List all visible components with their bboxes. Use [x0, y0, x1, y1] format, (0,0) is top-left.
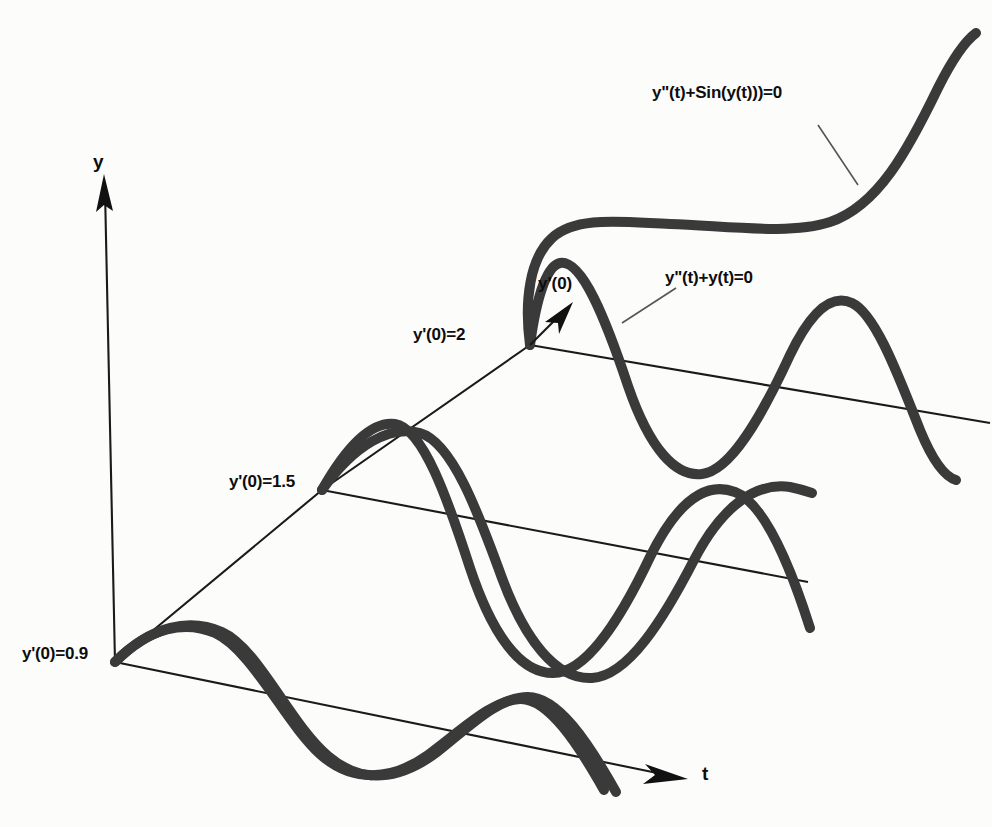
leader-line-nonlinear-equation	[818, 125, 858, 185]
initial-condition-label-0p9: y'(0)=0.9	[22, 644, 88, 664]
slope-arrow-label: y'(0)	[538, 274, 572, 294]
y-axis-label: y	[93, 151, 104, 173]
initial-condition-label-1p5: y'(0)=1.5	[229, 472, 295, 492]
t-axis-arrowhead	[643, 764, 688, 784]
slope-arrow-head	[545, 302, 573, 334]
y-axis-line	[105, 190, 115, 662]
leader-line-linear-equation	[622, 288, 676, 323]
curve-nonlinear-slope-1p5	[322, 431, 812, 678]
ode-solution-figure: y t y"(t)+Sin(y(t)))=0 y"(t)+y(t)=0 y'(0…	[0, 0, 992, 827]
figure-canvas	[0, 0, 992, 827]
equation-label-nonlinear: y"(t)+Sin(y(t)))=0	[652, 83, 782, 103]
curve-linear-slope-2	[530, 263, 956, 480]
t-axis-label: t	[702, 763, 708, 785]
equation-label-linear: y"(t)+y(t)=0	[665, 268, 753, 288]
initial-condition-label-2: y'(0)=2	[413, 325, 465, 345]
curve-linear-slope-0p9	[115, 627, 604, 790]
curve-linear-slope-1p5	[322, 424, 810, 673]
plane-middle-curves	[322, 424, 812, 678]
